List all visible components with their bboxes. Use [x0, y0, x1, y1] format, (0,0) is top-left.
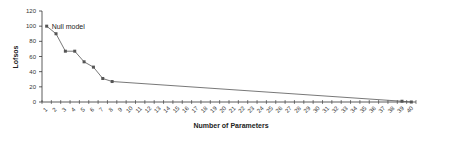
data-point-marker: [83, 60, 86, 63]
x-tick-label: 37: [377, 105, 386, 114]
data-point-marker: [111, 80, 114, 83]
y-tick-label: 80: [29, 38, 36, 44]
x-tick-label: 18: [200, 105, 209, 114]
x-tick-label: 24: [256, 105, 265, 114]
x-tick-label: 5: [79, 106, 86, 113]
x-tick-label: 36: [368, 105, 377, 114]
line-chart: 020406080100120 123456789101112131415161…: [0, 0, 456, 141]
data-point-marker: [64, 50, 67, 53]
x-tick-label: 12: [144, 105, 153, 114]
x-tick-label: 32: [331, 105, 340, 114]
x-axis: 1234567891011121314151617181920212223242…: [42, 100, 416, 114]
x-tick-label: 22: [237, 105, 246, 114]
x-tick-label: 26: [275, 105, 284, 114]
x-tick-label: 27: [284, 105, 293, 114]
x-tick-label: 38: [387, 105, 396, 114]
x-tick-label: 28: [293, 105, 302, 114]
x-tick-label: 11: [134, 105, 143, 114]
x-tick-label: 20: [218, 105, 227, 114]
x-tick-label: 19: [209, 105, 218, 114]
x-axis-title: Number of Parameters: [193, 122, 268, 129]
x-tick-label: 1: [42, 106, 49, 113]
x-tick-label: 31: [321, 105, 330, 114]
x-tick-label: 33: [340, 105, 349, 114]
y-tick-label: 20: [29, 84, 36, 90]
data-series: [45, 25, 413, 104]
x-tick-label: 9: [117, 106, 124, 113]
data-point-marker: [92, 66, 95, 69]
x-tick-label: 34: [349, 105, 358, 114]
x-tick-label: 40: [405, 105, 414, 114]
data-point-marker: [400, 100, 403, 103]
x-tick-label: 30: [312, 105, 321, 114]
y-axis: 020406080100120: [26, 8, 42, 105]
x-tick-label: 3: [61, 106, 68, 113]
y-tick-label: 0: [33, 99, 37, 105]
x-tick-label: 23: [246, 105, 255, 114]
x-tick-label: 4: [70, 106, 77, 113]
x-tick-label: 7: [98, 106, 105, 113]
x-tick-label: 13: [153, 105, 162, 114]
null-model-annotation: Null model: [52, 23, 86, 30]
data-point-marker: [73, 50, 76, 53]
x-tick-label: 25: [265, 105, 274, 114]
x-tick-label: 2: [51, 106, 58, 113]
x-tick-label: 15: [172, 105, 181, 114]
x-tick-label: 29: [303, 105, 312, 114]
y-tick-label: 100: [26, 23, 37, 29]
x-tick-label: 21: [228, 105, 237, 114]
y-tick-label: 60: [29, 54, 36, 60]
y-tick-label: 40: [29, 69, 36, 75]
x-tick-label: 10: [125, 105, 134, 114]
x-tick-label: 14: [162, 105, 171, 114]
x-tick-label: 8: [107, 106, 114, 113]
x-tick-label: 35: [359, 105, 368, 114]
x-tick-label: 16: [181, 105, 190, 114]
y-tick-label: 120: [26, 8, 37, 14]
x-tick-label: 39: [396, 105, 405, 114]
y-axis-title: Lofsos: [12, 45, 19, 68]
data-point-marker: [45, 25, 48, 28]
series-line: [47, 26, 412, 102]
x-tick-label: 17: [190, 105, 199, 114]
x-tick-label: 6: [89, 106, 96, 113]
data-point-marker: [55, 32, 58, 35]
data-point-marker: [101, 77, 104, 80]
data-point-marker: [410, 101, 413, 104]
